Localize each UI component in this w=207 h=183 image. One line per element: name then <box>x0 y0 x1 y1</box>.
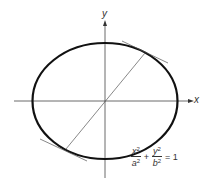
y-axis-label: y <box>102 8 107 19</box>
ellipse-diagram: y x x2 a2 + y2 b2 = 1 <box>0 0 207 183</box>
tangent-line-bottom <box>40 139 87 161</box>
fraction-x: x2 a2 <box>131 145 141 168</box>
plus-sign: + <box>144 152 149 162</box>
fraction-y: y2 b2 <box>152 145 162 168</box>
ellipse-equation: x2 a2 + y2 b2 = 1 <box>131 145 178 168</box>
tangent-line-top <box>122 41 168 63</box>
equals-one: = 1 <box>165 152 178 162</box>
y-axis-arrow-icon <box>103 20 107 26</box>
x-axis-label: x <box>194 94 199 105</box>
